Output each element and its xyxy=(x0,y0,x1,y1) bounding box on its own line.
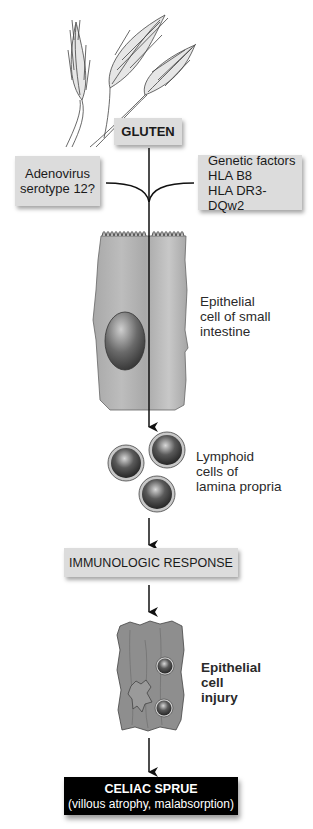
epithelial-injury-label: Epithelial cell injury xyxy=(201,660,261,705)
adenovirus-box: Adenovirus serotype 12? xyxy=(15,156,100,206)
gluten-label: GLUTEN xyxy=(121,124,174,139)
injury-line1: Epithelial xyxy=(201,660,261,675)
immunologic-response-box: IMMUNOLOGIC RESPONSE xyxy=(64,548,238,577)
lymphoid-line2: cells of xyxy=(196,464,282,479)
genetic-line3: HLA DR3-DQw2 xyxy=(208,183,302,213)
lymphoid-line1: Lymphoid xyxy=(196,449,282,464)
adenovirus-line1: Adenovirus xyxy=(25,166,90,181)
immunologic-label: IMMUNOLOGIC RESPONSE xyxy=(69,556,233,570)
celiac-sprue-box: CELIAC SPRUE (villous atrophy, malabsorp… xyxy=(64,777,238,815)
epithelial-line1: Epithelial xyxy=(200,294,271,309)
celiac-subtitle: (villous atrophy, malabsorption) xyxy=(68,797,234,811)
epithelial-cell-label: Epithelial cell of small intestine xyxy=(200,294,271,339)
celiac-title: CELIAC SPRUE xyxy=(104,782,197,797)
adenovirus-line2: serotype 12? xyxy=(20,181,95,196)
lymphoid-cells-label: Lymphoid cells of lamina propria xyxy=(196,449,282,494)
genetic-line1: Genetic factors xyxy=(208,153,302,168)
genetic-factors-box: Genetic factors HLA B8 HLA DR3-DQw2 xyxy=(198,155,302,210)
epithelial-line2: cell of small xyxy=(200,309,271,324)
lymphoid-line3: lamina propria xyxy=(196,479,282,494)
injury-line2: cell xyxy=(201,675,261,690)
lymphoid-cells-illustration xyxy=(108,432,185,512)
epithelial-cell-illustration xyxy=(93,232,188,411)
gluten-box: GLUTEN xyxy=(114,118,182,145)
injured-cell-illustration xyxy=(117,621,184,731)
injury-line3: injury xyxy=(201,690,261,705)
epithelial-line3: intestine xyxy=(200,324,271,339)
genetic-line2: HLA B8 xyxy=(208,168,302,183)
